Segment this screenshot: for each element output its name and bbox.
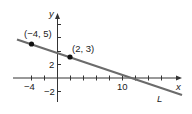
x-axis-label: x — [175, 81, 182, 92]
point-label-1: (−4, 5) — [24, 28, 52, 39]
y-tick-label-neg2: −2 — [44, 86, 55, 97]
x-tick-label-10: 10 — [117, 81, 128, 92]
x-tick-label-neg4: −4 — [24, 81, 35, 92]
coordinate-plane: y x L (−4, 5) (2, 3) −4 10 2 −2 — [0, 0, 192, 114]
point-2-3 — [67, 54, 72, 59]
point-label-2: (2, 3) — [72, 43, 94, 54]
line-label: L — [157, 93, 162, 104]
y-ticks — [58, 25, 62, 92]
line-l — [17, 40, 182, 96]
point-neg4-5 — [29, 41, 34, 46]
x-axis-arrow-icon — [176, 76, 182, 81]
y-tick-label-2: 2 — [49, 59, 54, 70]
y-axis-label: y — [48, 8, 55, 19]
y-axis-arrow-icon — [55, 13, 60, 19]
